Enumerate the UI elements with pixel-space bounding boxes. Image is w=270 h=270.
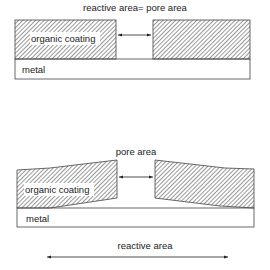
pore-label: pore area <box>116 146 157 157</box>
coating-label: organic coating <box>31 33 95 44</box>
top-title: reactive area= pore area <box>83 2 187 13</box>
metal-layer <box>17 208 254 227</box>
reactive-label: reactive area <box>118 240 174 251</box>
coating-diagram: reactive area= pore area organic coating… <box>0 0 270 270</box>
metal-layer <box>15 59 250 79</box>
coating-label: organic coating <box>25 184 89 195</box>
bottom-diagram: pore area organic coating metal reactive… <box>17 146 254 257</box>
metal-label: metal <box>22 64 45 75</box>
coating-right <box>155 160 254 208</box>
metal-label: metal <box>26 213 49 224</box>
top-diagram: reactive area= pore area organic coating… <box>15 2 250 79</box>
coating-right <box>153 20 250 59</box>
